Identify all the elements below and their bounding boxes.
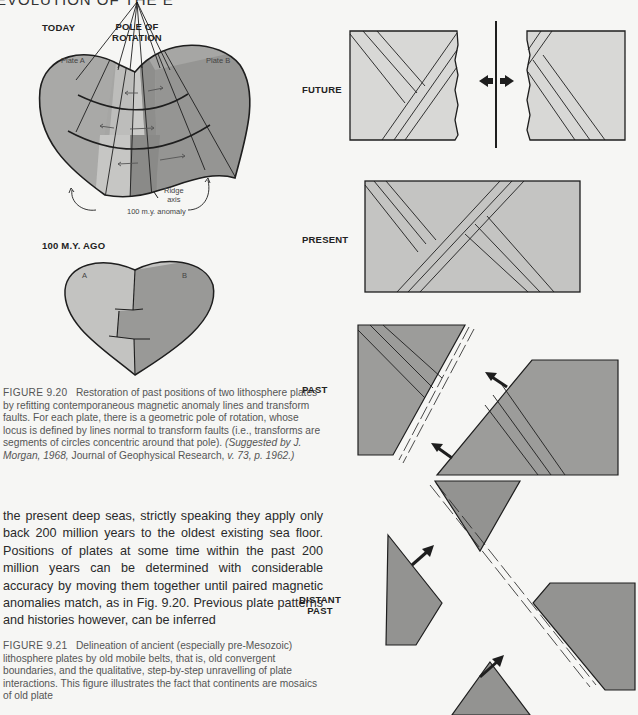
hundred-my-ago-plate-diagram bbox=[55, 255, 225, 375]
label-plate-b: Plate B bbox=[206, 56, 230, 65]
present-diagram bbox=[360, 178, 638, 298]
label-present: PRESENT bbox=[302, 234, 348, 245]
figure-9-21-caption: FIGURE 9.21 Delineation of ancient (espe… bbox=[3, 640, 325, 703]
figure-9-20-caption: FIGURE 9.20 Restoration of past position… bbox=[3, 387, 323, 463]
distant-past-diagram bbox=[330, 455, 638, 715]
label-100-my-ago: 100 M.Y. AGO bbox=[42, 240, 105, 251]
future-diagram bbox=[345, 20, 638, 155]
label-future: FUTURE bbox=[302, 84, 342, 95]
label-100my-anomaly: 100 m.y. anomaly bbox=[127, 207, 186, 216]
body-paragraph: the present deep seas, strictly speaking… bbox=[3, 508, 323, 630]
label-past: PAST bbox=[302, 384, 327, 395]
label-today: TODAY bbox=[42, 22, 75, 33]
running-head: EVOLUTION OF THE E bbox=[0, 0, 174, 8]
label-plate-a: Plate A bbox=[61, 56, 85, 65]
label-b: B bbox=[182, 271, 187, 280]
label-ridge-axis: Ridge axis bbox=[164, 186, 184, 204]
label-a: A bbox=[82, 271, 87, 280]
